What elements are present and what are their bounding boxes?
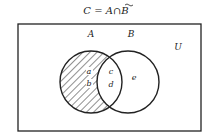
- region-d-label: d: [108, 80, 113, 89]
- set-b-label: B: [127, 29, 135, 39]
- region-b-label: b: [86, 79, 91, 88]
- region-a-label: a: [87, 67, 92, 76]
- region-c-label: c: [109, 67, 114, 76]
- set-a-label: A: [87, 29, 95, 39]
- diagram-title: C = A∩B: [83, 5, 128, 16]
- region-e-label: e: [132, 73, 137, 82]
- venn-diagram: C = A∩B A B U a b c d e: [0, 0, 214, 137]
- universe-label: U: [174, 42, 182, 52]
